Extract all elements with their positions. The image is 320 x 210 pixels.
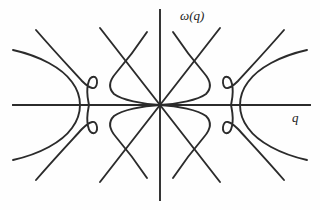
curve-right-outer-upper	[240, 50, 307, 105]
curve-acoustic-branch-upper-right	[160, 28, 220, 105]
y-axis-label: ω(q)	[180, 8, 204, 23]
dispersion-figure: ω(q) q	[0, 0, 320, 210]
curve-left-outer-lower	[13, 105, 80, 160]
curve-left-outer-upper	[13, 50, 80, 105]
curve-right-inner-s-lower	[223, 105, 284, 180]
curve-acoustic-branch-lower-right	[160, 105, 220, 182]
curve-left-inner-s-lower	[36, 105, 97, 180]
x-axis-label: q	[292, 110, 299, 125]
curve-acoustic-branch-lower-left	[100, 105, 160, 182]
dispersion-plot-svg: ω(q) q	[0, 0, 320, 210]
curve-acoustic-branch-upper-left	[100, 28, 160, 105]
curve-left-inner-s-upper	[36, 30, 97, 105]
curve-right-inner-s-upper	[223, 30, 284, 105]
